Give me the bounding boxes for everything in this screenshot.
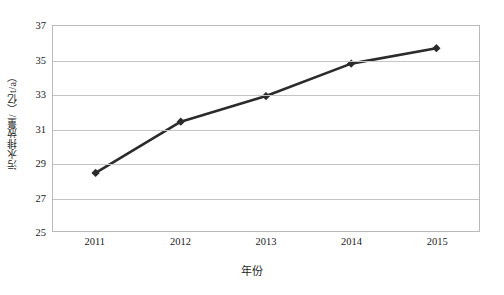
y-axis-tick-label: 27	[36, 192, 47, 203]
y-axis-tick-label: 35	[36, 54, 47, 65]
x-axis-tick-label: 2015	[427, 236, 448, 247]
series-line-chart	[53, 26, 479, 231]
y-axis-tick-label: 29	[36, 158, 47, 169]
y-axis-tick-label: 31	[36, 123, 47, 134]
series-markers	[91, 44, 440, 177]
gridline	[53, 61, 479, 62]
plot-area	[52, 25, 480, 232]
data-point-marker	[262, 92, 270, 100]
x-axis-tick-label: 2012	[170, 236, 191, 247]
gridline	[53, 164, 479, 165]
x-axis-tick-label: 2011	[84, 236, 105, 247]
y-axis-tick-label: 37	[36, 20, 47, 31]
y-axis-title: 污水排放量/（亿t/a）	[0, 0, 24, 240]
gridline	[53, 130, 479, 131]
series-polyline	[96, 48, 437, 173]
x-axis-tick-label: 2014	[341, 236, 362, 247]
x-axis-tick-label: 2013	[256, 236, 277, 247]
gridline	[53, 199, 479, 200]
x-axis-tick-labels: 20112012201320142015	[52, 236, 480, 254]
x-axis-title: 年份	[0, 262, 504, 278]
chart-figure: 污水排放量/（亿t/a） 25272931333537 201120122013…	[0, 0, 504, 295]
data-point-marker	[432, 44, 440, 52]
y-axis-tick-labels: 25272931333537	[24, 0, 50, 295]
y-axis-tick-label: 33	[36, 89, 47, 100]
y-axis-title-text: 污水排放量/（亿t/a）	[5, 71, 20, 170]
gridline	[53, 95, 479, 96]
y-axis-tick-label: 25	[36, 227, 47, 238]
